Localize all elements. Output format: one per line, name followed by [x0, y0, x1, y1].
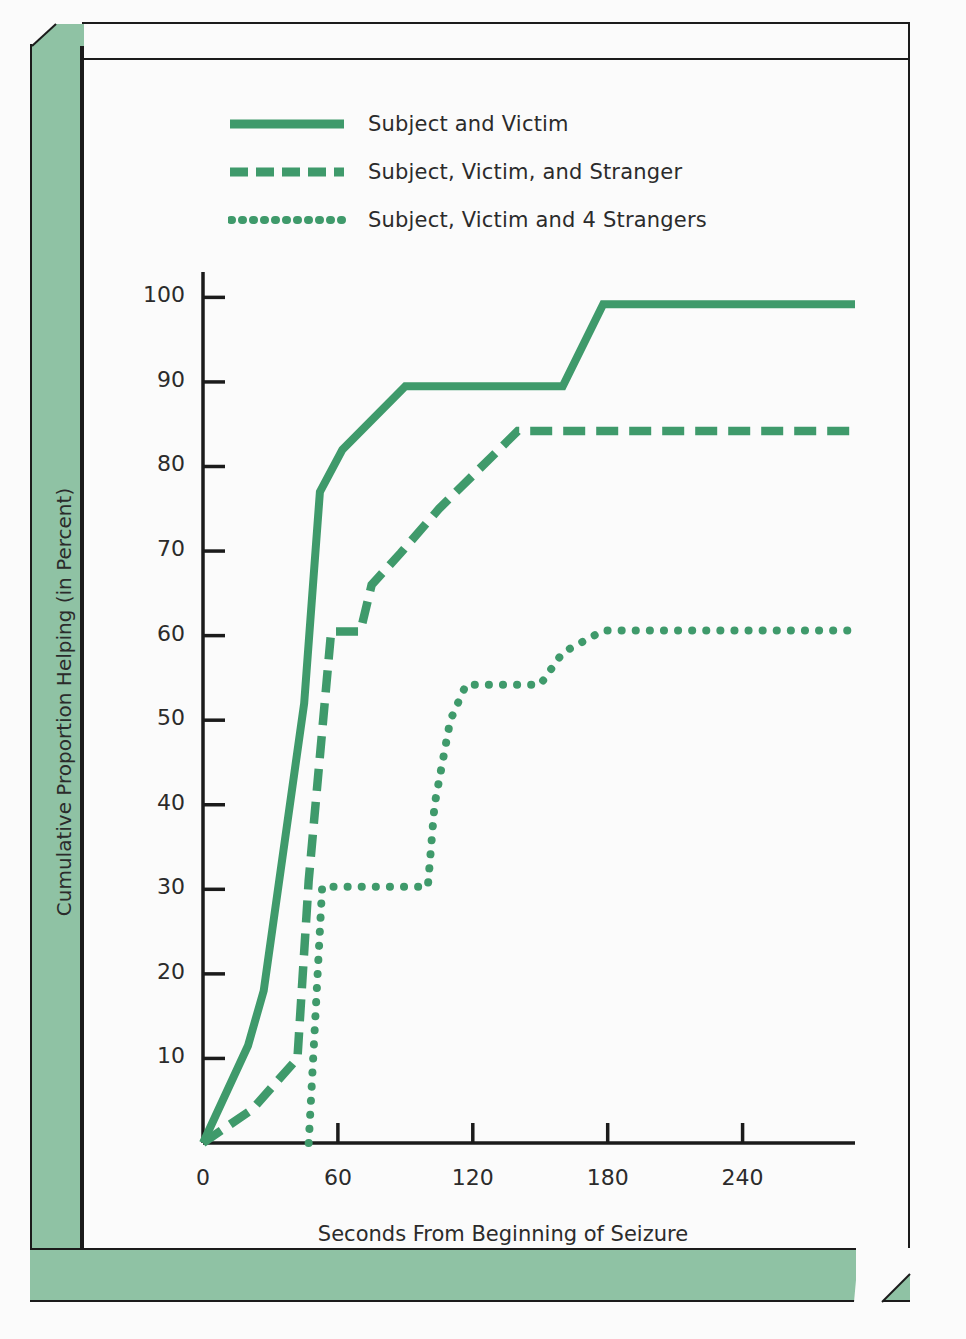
legend-label-subject-victim-4-strangers: Subject, Victim and 4 Strangers — [368, 208, 707, 232]
y-axis-title: Cumulative Proportion Helping (in Percen… — [52, 442, 76, 962]
y-tick-label: 40 — [125, 790, 185, 815]
frame-bevel-bottom — [30, 1248, 910, 1302]
y-tick-label: 10 — [125, 1043, 185, 1068]
legend-item-dashed: Subject, Victim, and Stranger — [228, 148, 698, 196]
y-tick-label: 60 — [125, 621, 185, 646]
y-tick-label: 50 — [125, 705, 185, 730]
legend-item-dotted: Subject, Victim and 4 Strangers — [228, 196, 698, 244]
frame-corner-top-left — [30, 22, 86, 48]
x-axis-title: Seconds From Beginning of Seizure — [203, 1222, 803, 1246]
x-tick-label: 180 — [573, 1165, 643, 1190]
chart-legend: Subject and Victim Subject, Victim, and … — [228, 100, 698, 244]
y-tick-label: 20 — [125, 959, 185, 984]
legend-swatch-dashed-icon — [228, 161, 346, 183]
x-tick-label: 60 — [303, 1165, 373, 1190]
x-tick-label: 120 — [438, 1165, 508, 1190]
chart-page: Subject and Victim Subject, Victim, and … — [0, 0, 966, 1339]
frame-inner-rule — [82, 58, 910, 60]
y-tick-label: 30 — [125, 874, 185, 899]
y-tick-label: 70 — [125, 536, 185, 561]
legend-swatch-dotted-icon — [228, 209, 346, 231]
x-tick-label: 240 — [708, 1165, 778, 1190]
legend-swatch-solid-icon — [228, 113, 346, 135]
y-tick-label: 80 — [125, 451, 185, 476]
frame-corner-bottom-right — [854, 1246, 912, 1304]
x-tick-label: 0 — [168, 1165, 238, 1190]
y-tick-label: 100 — [125, 282, 185, 307]
y-tick-label: 90 — [125, 367, 185, 392]
legend-label-subject-victim-stranger: Subject, Victim, and Stranger — [368, 160, 682, 184]
legend-item-solid: Subject and Victim — [228, 100, 698, 148]
legend-label-subject-victim: Subject and Victim — [368, 112, 569, 136]
